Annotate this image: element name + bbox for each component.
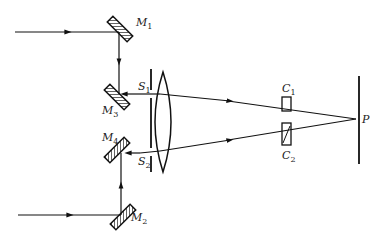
label-c1: C1 [282, 82, 296, 97]
upper-beam-path [15, 32, 356, 119]
cell-c2 [282, 123, 291, 145]
lower-beam-path [18, 119, 356, 215]
label-m1: M1 [135, 16, 152, 31]
label-p: P [361, 113, 370, 126]
label-s2: S2 [138, 155, 151, 170]
label-m2: M2 [130, 211, 147, 226]
label-m3: M3 [101, 104, 118, 119]
mirror-m1 [107, 16, 132, 41]
optics-diagram: M1 M3 M4 M2 S1 S2 C1 C2 P [0, 0, 383, 243]
label-c2: C2 [282, 149, 296, 164]
label-s1: S1 [138, 80, 151, 95]
label-m4: M4 [101, 131, 118, 146]
convex-lens [155, 72, 171, 172]
